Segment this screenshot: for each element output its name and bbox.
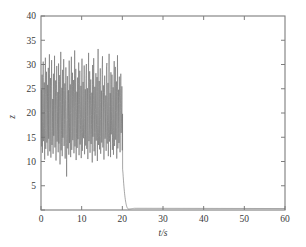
y-tick-label: 15 xyxy=(27,133,37,143)
y-tick-label: 40 xyxy=(27,11,37,21)
x-tick-label: 40 xyxy=(199,214,209,224)
y-axis-title: z xyxy=(7,115,17,120)
x-tick-label: 0 xyxy=(39,214,44,224)
x-tick-label: 20 xyxy=(118,214,128,224)
figure-container: 5 10 15 20 25 30 35 40 0 10 20 30 40 50 … xyxy=(0,0,306,247)
x-tick-label: 10 xyxy=(77,214,87,224)
y-tick-label: 35 xyxy=(27,36,37,46)
x-axis-title: t/s xyxy=(159,228,168,238)
y-tick-label: 10 xyxy=(27,157,37,167)
y-tick-label: 5 xyxy=(31,181,36,191)
x-tick-label: 50 xyxy=(240,214,250,224)
y-tick-label: 30 xyxy=(27,60,37,70)
y-tick-label: 20 xyxy=(27,108,37,118)
chart-plot: 5 10 15 20 25 30 35 40 0 10 20 30 40 50 … xyxy=(0,0,306,247)
x-tick-label: 30 xyxy=(158,214,168,224)
y-tick-label: 25 xyxy=(27,84,37,94)
x-tick-label: 60 xyxy=(280,214,290,224)
